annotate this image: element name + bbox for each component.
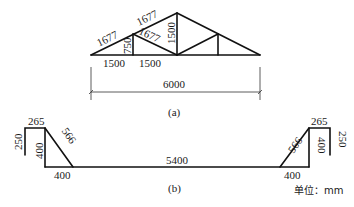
label-bottom-seg-1: 1500	[103, 57, 126, 69]
label-top-chord-left-upper: 1677	[134, 7, 159, 28]
label-right-lip: 250	[337, 131, 349, 148]
label-right-vertical: 400	[316, 137, 328, 154]
caption-a: (a)	[168, 106, 181, 119]
label-middle-base: 5400	[166, 154, 189, 166]
label-left-diagonal: 566	[60, 125, 80, 146]
label-king-post: 1500	[165, 22, 177, 45]
diagram-canvas: 1677 1677 750 1677 1500 1500 1500 6000 (…	[0, 0, 354, 207]
label-right-top: 265	[311, 115, 328, 127]
label-left-base: 400	[54, 169, 71, 181]
label-web-vertical-left: 750	[121, 37, 133, 54]
label-right-base: 400	[284, 169, 301, 181]
label-top-chord-left-lower: 1677	[95, 28, 120, 49]
label-left-top: 265	[28, 115, 45, 127]
truss-figure-a: 1677 1677 750 1677 1500 1500 1500 6000 (…	[89, 7, 262, 119]
label-left-lip: 250	[12, 133, 24, 150]
label-bottom-seg-2: 1500	[139, 57, 162, 69]
profile-figure-b: 250 265 566 400 400 5400 566 265 400 250…	[12, 115, 349, 196]
caption-b: (b)	[168, 182, 181, 195]
web-diagonal-right	[177, 34, 218, 55]
unit-label: 单位：mm	[294, 184, 343, 196]
label-span: 6000	[163, 78, 186, 90]
label-left-vertical: 400	[33, 142, 45, 159]
